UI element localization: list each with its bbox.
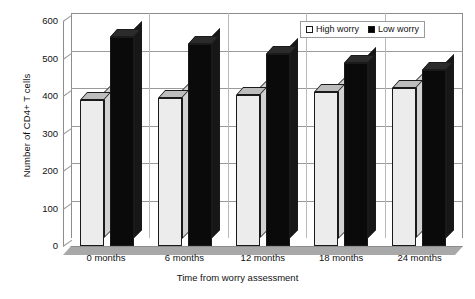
y-tick-label-600: 600 [18, 15, 58, 26]
bar-low-worry-24-months [422, 70, 446, 246]
x-tick-label-12-months: 12 months [220, 252, 306, 263]
category-separator-1 [149, 13, 150, 238]
x-axis-title: Time from worry assessment [0, 272, 475, 283]
chart-figure: Number of CD4+ T cells 600 500 400 300 2… [0, 0, 475, 299]
y-tick-label-400: 400 [18, 90, 58, 101]
x-tick-label-0-months: 0 months [63, 252, 149, 263]
bar-high-worry-0-months [80, 100, 104, 246]
category-separator-3 [306, 13, 307, 238]
y-tick-label-500: 500 [18, 53, 58, 64]
y-tick-label-100: 100 [18, 203, 58, 214]
y-tick-label-300: 300 [18, 128, 58, 139]
legend-label-high-worry: High worry [316, 24, 359, 34]
bar-low-worry-18-months [344, 63, 368, 246]
legend-item-low-worry: Low worry [368, 24, 419, 34]
open-square-swatch-icon [306, 26, 313, 33]
x-tick-label-24-months: 24 months [377, 252, 463, 263]
legend-label-low-worry: Low worry [378, 24, 419, 34]
bar-low-worry-0-months [110, 37, 134, 246]
bar-low-worry-12-months [266, 54, 290, 246]
category-separator-4 [385, 13, 386, 238]
bar-high-worry-18-months [314, 92, 338, 247]
x-tick-label-18-months: 18 months [298, 252, 384, 263]
chart-legend: High worry Low worry [300, 21, 425, 38]
x-tick-label-6-months: 6 months [141, 252, 227, 263]
y-tick-label-0: 0 [18, 240, 58, 251]
filled-square-swatch-icon [368, 26, 375, 33]
bar-low-worry-6-months [188, 44, 212, 246]
legend-item-high-worry: High worry [306, 24, 359, 34]
plot-area [63, 21, 455, 246]
y-tick-label-200: 200 [18, 165, 58, 176]
bar-high-worry-6-months [158, 98, 182, 247]
category-separator-2 [228, 13, 229, 238]
bar-high-worry-24-months [392, 88, 416, 246]
bar-high-worry-12-months [236, 95, 260, 246]
